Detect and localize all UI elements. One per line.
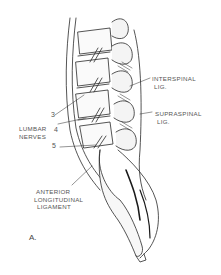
interspinal-label-line1: INTERSPINAL [152,75,196,83]
nerve-number-3: 3 [51,111,55,118]
nerve-number-5: 5 [52,142,56,149]
anterior-label-line1: ANTERIOR [34,188,83,196]
supraspinal-ligament-label: SUPRASPINAL LIG. [155,110,202,125]
nerve-number-4: 4 [54,126,58,133]
panel-label: A. [29,233,37,242]
supraspinal-label-line1: SUPRASPINAL [155,110,202,118]
lumbar-spine-illustration: INTERSPINAL LIG. SUPRASPINAL LIG. LUMBAR… [0,0,221,275]
lumbar-label-line1: LUMBAR [19,125,47,133]
anterior-label-line2: LONGITUDINAL [34,196,83,204]
supraspinal-label-line2: LIG. [155,118,202,126]
lumbar-label-line2: NERVES [19,133,47,141]
interspinal-label-line2: LIG. [152,83,196,91]
lumbar-nerves-label: LUMBAR NERVES [19,125,47,140]
anterior-label-line3: LIGAMENT [34,203,83,211]
anterior-longitudinal-ligament-label: ANTERIOR LONGITUDINAL LIGAMENT [34,188,83,211]
interspinal-ligament-label: INTERSPINAL LIG. [152,75,196,90]
